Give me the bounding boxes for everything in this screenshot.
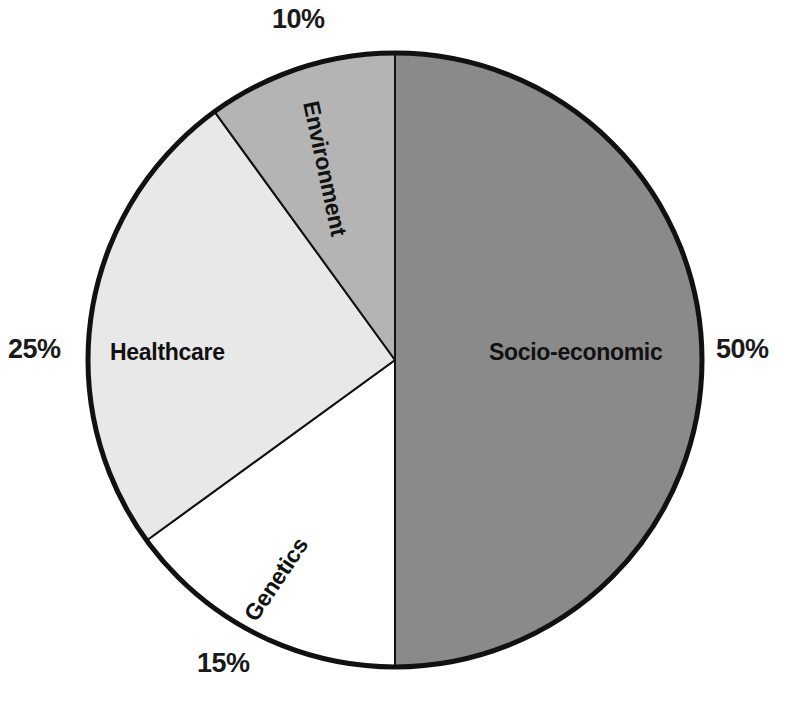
pie-chart: 10% 50% 15% 25% Socio-economic Healthcar… xyxy=(0,0,797,703)
slice-label-healthcare: Healthcare xyxy=(110,341,225,364)
slice-label-socio-economic: Socio-economic xyxy=(489,341,662,364)
percent-label-socio-economic: 50% xyxy=(716,336,769,363)
percent-label-healthcare: 25% xyxy=(8,336,61,363)
percent-label-genetics: 15% xyxy=(197,650,250,677)
percent-label-environment: 10% xyxy=(272,6,325,33)
